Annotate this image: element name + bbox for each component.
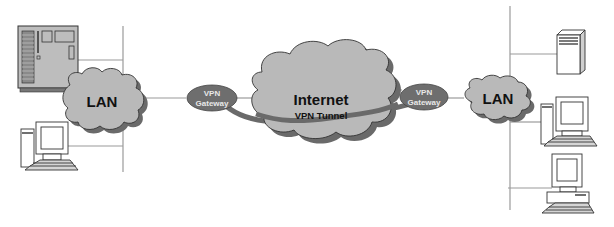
right-gateway-line2: Gateway: [408, 98, 441, 107]
desktop-pc-icon: [542, 154, 594, 213]
internet-label: Internet: [293, 91, 348, 108]
desktop-pc-icon: [541, 97, 597, 146]
left-gateway-line1: VPN: [204, 89, 221, 98]
right-lan-cloud: LAN: [465, 75, 534, 123]
left-gateway-line2: Gateway: [196, 99, 229, 108]
tower-server-icon: [557, 30, 585, 74]
left-lan-cloud: LAN: [63, 68, 148, 134]
left-lan-label: LAN: [87, 93, 118, 110]
vpn-diagram: LAN Internet VPN Tunnel VPN Gateway VPN …: [0, 0, 614, 227]
internet-cloud: Internet VPN Tunnel: [252, 40, 401, 144]
right-gateway-line1: VPN: [416, 88, 433, 97]
right-vpn-gateway: VPN Gateway: [400, 84, 448, 110]
right-lan-label: LAN: [483, 90, 514, 107]
vpn-tunnel-label: VPN Tunnel: [295, 110, 348, 121]
left-vpn-gateway: VPN Gateway: [187, 85, 237, 111]
